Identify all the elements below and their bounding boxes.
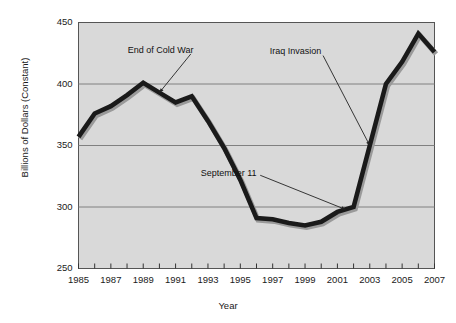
x-tick-label-1989: 1989 xyxy=(128,274,158,285)
x-tick-label-2001: 2001 xyxy=(322,274,352,285)
x-tick-label-1993: 1993 xyxy=(193,274,223,285)
x-tick-label-1997: 1997 xyxy=(258,274,288,285)
x-tick-label-1985: 1985 xyxy=(64,274,94,285)
y-tick-label-350: 350 xyxy=(43,139,73,150)
x-tick-label-1987: 1987 xyxy=(96,274,126,285)
annotation-label-end-of-cold-war: End of Cold War xyxy=(128,45,194,55)
x-axis-title: Year xyxy=(0,300,456,311)
annotation-label-iraq-invasion: Iraq Invasion xyxy=(270,46,322,56)
x-tick-label-1991: 1991 xyxy=(161,274,191,285)
x-tick-label-2005: 2005 xyxy=(387,274,417,285)
annotation-label-september-11: September 11 xyxy=(201,168,257,178)
x-tick-label-2003: 2003 xyxy=(355,274,385,285)
x-tick-label-1995: 1995 xyxy=(225,274,255,285)
y-axis-title: Billions of Dollars (Constant) xyxy=(19,48,30,188)
defense-spending-line-chart: Billions of Dollars (Constant) Year 4504… xyxy=(0,0,456,323)
y-tick-label-300: 300 xyxy=(43,201,73,212)
y-tick-label-250: 250 xyxy=(43,262,73,273)
y-tick-label-400: 400 xyxy=(43,78,73,89)
x-tick-label-2007: 2007 xyxy=(420,274,450,285)
x-tick-label-1999: 1999 xyxy=(290,274,320,285)
y-tick-label-450: 450 xyxy=(43,16,73,27)
